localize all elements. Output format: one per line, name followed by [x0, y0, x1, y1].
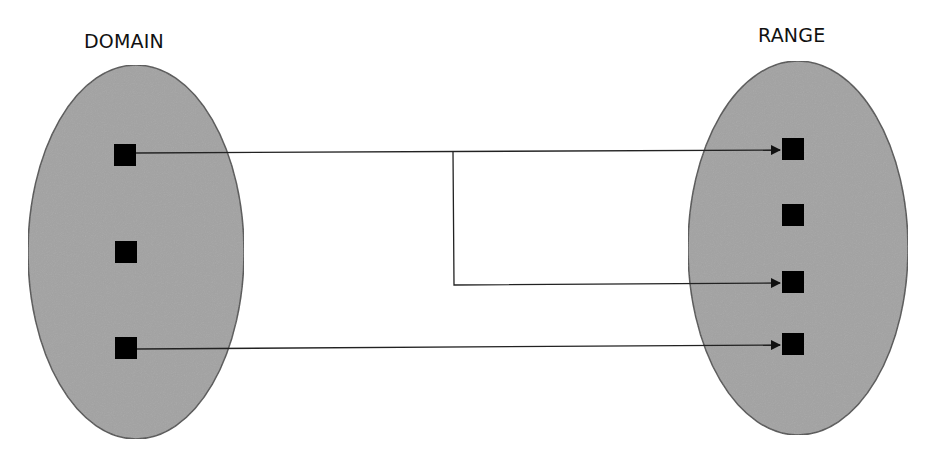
domain-element-d3: [115, 337, 137, 359]
range-element-r1: [782, 138, 804, 160]
range-element-r4: [782, 333, 804, 355]
arrow-d1-r1: [136, 150, 780, 153]
range-set-ellipse: [688, 61, 908, 435]
arrow-d3-r4: [137, 345, 780, 349]
range-element-r2: [782, 204, 804, 226]
domain-element-d1: [114, 144, 136, 166]
domain-element-d2: [115, 241, 137, 263]
mapping-diagram: [0, 0, 936, 463]
range-element-r3: [782, 271, 804, 293]
